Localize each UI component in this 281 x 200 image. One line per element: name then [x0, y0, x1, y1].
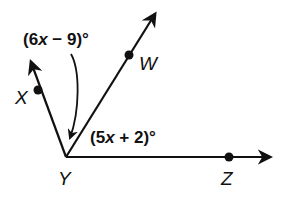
point-w	[125, 51, 134, 60]
label-z: Z	[220, 168, 234, 189]
angle-xyw-expression: (6x − 9)°	[23, 30, 89, 49]
point-x	[34, 86, 43, 95]
label-y: Y	[58, 168, 72, 189]
ray-yx	[31, 62, 66, 157]
label-w: W	[139, 53, 159, 74]
point-z	[225, 153, 234, 162]
label-x: X	[14, 87, 29, 108]
angle-diagram: X W Z Y (6x − 9)° (5x + 2)°	[0, 0, 281, 200]
angle-pointer-arrow	[70, 54, 78, 138]
angle-wyz-expression: (5x + 2)°	[90, 128, 156, 147]
